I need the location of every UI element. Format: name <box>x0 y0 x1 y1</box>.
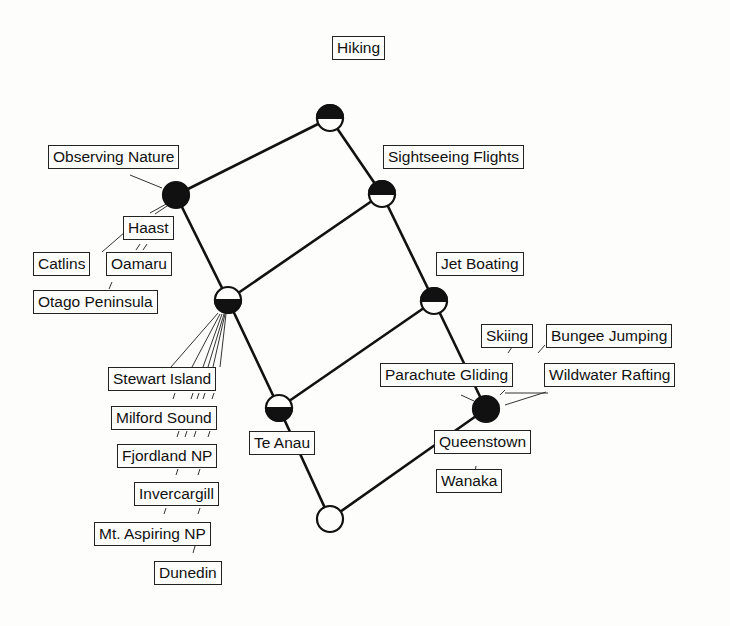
label-catlins: Catlins <box>33 252 90 276</box>
node-sightseeing-flights[interactable] <box>369 181 395 207</box>
label-queenstown: Queenstown <box>434 430 531 454</box>
label-observing-nature: Observing Nature <box>48 145 179 169</box>
node-hiking[interactable] <box>317 105 343 131</box>
label-skiing: Skiing <box>481 324 533 348</box>
node-queenstown[interactable] <box>473 396 499 422</box>
label-oamaru: Oamaru <box>106 252 172 276</box>
label-stewart-island: Stewart Island <box>108 367 216 391</box>
label-parachute-gliding: Parachute Gliding <box>380 363 513 387</box>
label-dunedin: Dunedin <box>154 561 222 585</box>
label-bungee-jumping: Bungee Jumping <box>546 324 672 348</box>
label-mt-aspiring-np: Mt. Aspiring NP <box>94 522 211 546</box>
label-haast: Haast <box>123 216 174 240</box>
node-observing-nature[interactable] <box>163 182 189 208</box>
node-jet-boating[interactable] <box>421 288 447 314</box>
label-jet-boating: Jet Boating <box>436 252 524 276</box>
label-otago-peninsula: Otago Peninsula <box>33 290 158 314</box>
node-te-anau[interactable] <box>266 395 292 421</box>
label-milford-sound: Milford Sound <box>111 406 217 430</box>
label-fjordland-np: Fjordland NP <box>117 444 217 468</box>
label-sightseeing-flights: Sightseeing Flights <box>383 145 524 169</box>
node-bottom[interactable] <box>317 506 343 532</box>
label-wanaka: Wanaka <box>436 469 502 493</box>
label-te-anau: Te Anau <box>249 431 315 455</box>
label-invercargill: Invercargill <box>134 482 219 506</box>
node-middle[interactable] <box>215 287 241 313</box>
label-hiking: Hiking <box>332 36 385 60</box>
label-wildwater-rafting: Wildwater Rafting <box>544 363 675 387</box>
